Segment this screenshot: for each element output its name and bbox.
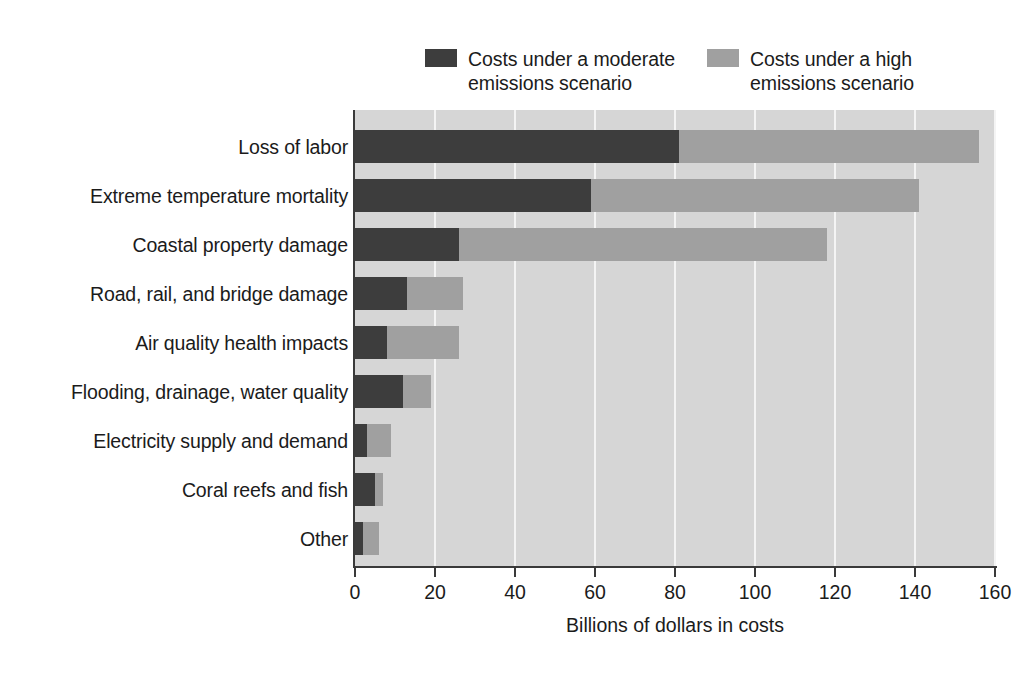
bar-segment-moderate bbox=[355, 522, 363, 555]
bar-segment-moderate bbox=[355, 326, 387, 359]
x-axis-tick-label: 160 bbox=[979, 580, 1012, 604]
gridline bbox=[994, 110, 996, 566]
bar-segment-high bbox=[591, 179, 919, 212]
bar-segment-moderate bbox=[355, 473, 375, 506]
bar-row bbox=[355, 473, 383, 506]
stacked-bar-chart: 020406080100120140160 Loss of laborExtre… bbox=[0, 0, 1034, 676]
x-axis-title: Billions of dollars in costs bbox=[355, 613, 995, 637]
bar-segment-high bbox=[367, 424, 391, 457]
bar-segment-moderate bbox=[355, 179, 591, 212]
x-axis-tick bbox=[674, 568, 676, 577]
y-axis-category-label: Extreme temperature mortality bbox=[3, 184, 348, 208]
bar-segment-moderate bbox=[355, 228, 459, 261]
bar-row bbox=[355, 326, 459, 359]
x-axis-tick-label: 60 bbox=[584, 580, 606, 604]
x-axis-tick bbox=[514, 568, 516, 577]
y-axis-category-label: Coastal property damage bbox=[3, 233, 348, 257]
bar-row bbox=[355, 228, 827, 261]
y-axis-category-label: Loss of labor bbox=[3, 135, 348, 159]
y-axis-category-labels: Loss of laborExtreme temperature mortali… bbox=[0, 110, 348, 566]
x-axis-tick-label: 40 bbox=[504, 580, 526, 604]
bar-segment-high bbox=[387, 326, 459, 359]
x-axis-tick-label: 100 bbox=[739, 580, 772, 604]
x-axis-tick-label: 120 bbox=[819, 580, 852, 604]
plot-area bbox=[355, 110, 995, 566]
y-axis-category-label: Flooding, drainage, water quality bbox=[3, 380, 348, 404]
x-axis-tick bbox=[434, 568, 436, 577]
bar-segment-moderate bbox=[355, 424, 367, 457]
bar-segment-high bbox=[407, 277, 463, 310]
x-axis-tick-label: 20 bbox=[424, 580, 446, 604]
bar-segment-moderate bbox=[355, 375, 403, 408]
x-axis-tick bbox=[914, 568, 916, 577]
x-axis-tick bbox=[834, 568, 836, 577]
x-axis-tick-label: 0 bbox=[350, 580, 361, 604]
bar-segment-high bbox=[459, 228, 827, 261]
x-axis-tick-label: 80 bbox=[664, 580, 686, 604]
bar-segment-high bbox=[403, 375, 431, 408]
y-axis-category-label: Air quality health impacts bbox=[3, 331, 348, 355]
bar-segment-moderate bbox=[355, 130, 679, 163]
bar-row bbox=[355, 424, 391, 457]
x-axis-tick-label: 140 bbox=[899, 580, 932, 604]
y-axis-line bbox=[353, 110, 355, 566]
y-axis-category-label: Road, rail, and bridge damage bbox=[3, 282, 348, 306]
bar-row bbox=[355, 277, 463, 310]
y-axis-category-label: Electricity supply and demand bbox=[3, 429, 348, 453]
bar-row bbox=[355, 522, 379, 555]
bar-row bbox=[355, 130, 979, 163]
y-axis-category-label: Other bbox=[3, 527, 348, 551]
x-axis-tick bbox=[994, 568, 996, 577]
bar-segment-high bbox=[363, 522, 379, 555]
x-axis-tick bbox=[754, 568, 756, 577]
y-axis-category-label: Coral reefs and fish bbox=[3, 478, 348, 502]
x-axis-tick bbox=[354, 568, 356, 577]
x-axis-tick bbox=[594, 568, 596, 577]
bar-row bbox=[355, 179, 919, 212]
bar-segment-moderate bbox=[355, 277, 407, 310]
bar-segment-high bbox=[679, 130, 979, 163]
bar-segment-high bbox=[375, 473, 383, 506]
bar-row bbox=[355, 375, 431, 408]
